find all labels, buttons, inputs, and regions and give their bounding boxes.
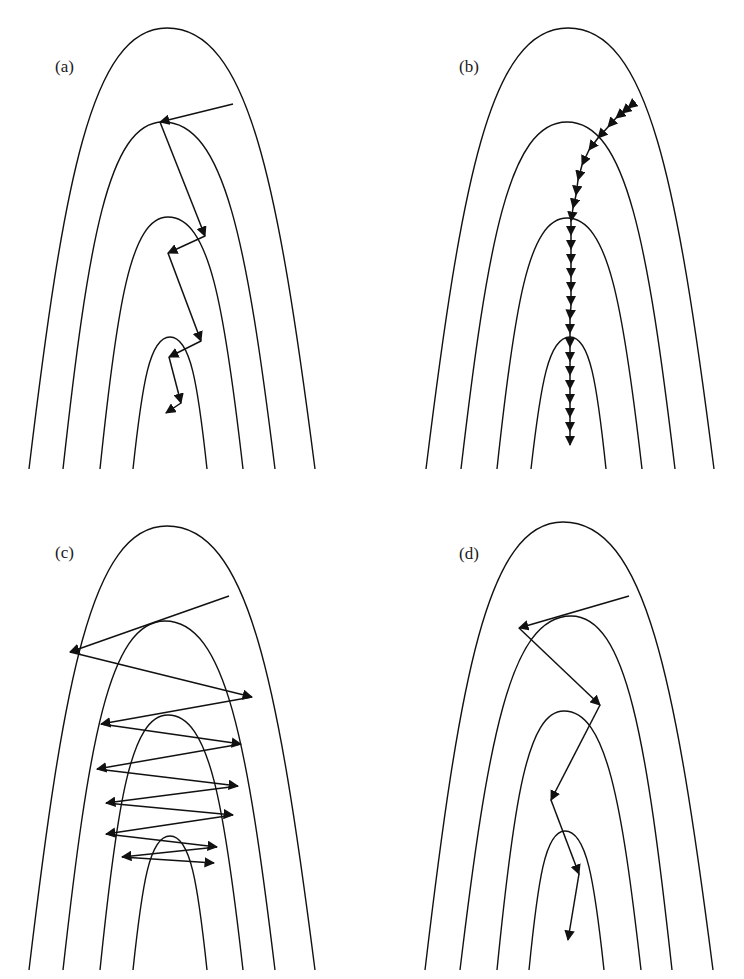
- descent-step-arrow-icon: [608, 118, 616, 127]
- panel-c: [29, 526, 315, 970]
- contour-line-4: [529, 831, 604, 970]
- descent-step-arrow-icon: [122, 847, 217, 857]
- contour-line-1: [29, 526, 315, 970]
- descent-step-arrow-icon: [106, 834, 217, 847]
- descent-step-arrow-icon: [519, 596, 629, 628]
- descent-step-arrow-icon: [169, 341, 201, 357]
- panel-label-b: (b): [459, 58, 479, 75]
- panel-label-a: (a): [55, 58, 74, 75]
- descent-step-arrow-icon: [598, 127, 608, 138]
- descent-step-arrow-icon: [576, 180, 578, 195]
- panel-d: [425, 522, 713, 970]
- descent-step-arrow-icon: [622, 108, 628, 113]
- descent-step-arrow-icon: [166, 403, 181, 413]
- contour-line-2: [63, 122, 275, 469]
- descent-step-arrow-icon: [122, 857, 214, 863]
- panel-b: [426, 28, 714, 469]
- panel-label-d: (d): [459, 545, 479, 562]
- contour-line-1: [29, 28, 315, 469]
- descent-step-arrow-icon: [106, 803, 233, 815]
- descent-step-arrow-icon: [616, 113, 622, 118]
- descent-step-arrow-icon: [97, 744, 241, 769]
- descent-step-arrow-icon: [519, 628, 600, 705]
- descent-step-arrow-icon: [551, 705, 600, 800]
- figure-canvas: [0, 0, 744, 979]
- descent-step-arrow-icon: [97, 769, 238, 786]
- contour-line-3: [100, 217, 243, 469]
- contour-line-3: [100, 715, 243, 970]
- descent-step-arrow-icon: [168, 253, 201, 341]
- contour-line-2: [461, 122, 675, 469]
- descent-step-arrow-icon: [568, 874, 579, 940]
- descent-step-arrow-icon: [573, 195, 576, 208]
- descent-step-arrow-icon: [70, 652, 252, 697]
- descent-step-arrow-icon: [589, 138, 598, 150]
- descent-step-arrow-icon: [101, 724, 241, 744]
- descent-step-arrow-icon: [101, 697, 252, 724]
- descent-step-arrow-icon: [169, 357, 181, 403]
- contour-line-2: [460, 616, 672, 970]
- panel-a: [29, 28, 315, 469]
- descent-step-arrow-icon: [160, 104, 233, 122]
- descent-step-arrow-icon: [570, 305, 571, 319]
- contour-line-4: [133, 836, 207, 970]
- gradient-descent-figure: (a) (b) (c) (d): [0, 0, 744, 979]
- descent-step-arrow-icon: [582, 150, 589, 165]
- descent-step-arrow-icon: [106, 815, 233, 834]
- descent-step-arrow-icon: [168, 236, 205, 253]
- descent-step-arrow-icon: [578, 165, 582, 180]
- contour-line-4: [531, 337, 606, 469]
- descent-step-arrow-icon: [628, 104, 633, 108]
- panel-label-c: (c): [55, 544, 74, 561]
